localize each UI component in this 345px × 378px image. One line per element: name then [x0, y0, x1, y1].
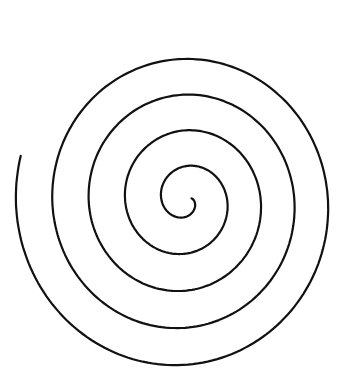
spiral-drawing: [0, 0, 345, 378]
